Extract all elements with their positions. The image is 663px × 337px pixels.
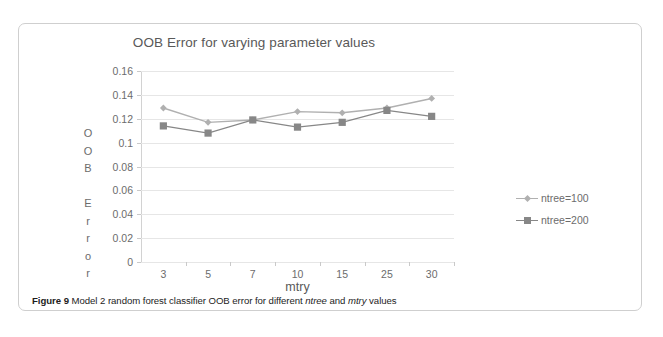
x-tick-label: 3 xyxy=(160,268,166,280)
y-axis-title-letter: B xyxy=(81,160,95,178)
x-tick-label: 25 xyxy=(381,268,393,280)
legend-diamond-icon xyxy=(516,192,538,204)
legend-item-1[interactable]: ntree=100 xyxy=(516,187,636,209)
series-plot xyxy=(141,71,454,262)
figure-caption: Figure 9 Model 2 random forest classifie… xyxy=(32,295,632,306)
y-axis-title-letter xyxy=(81,178,95,196)
marker-diamond xyxy=(205,119,212,126)
figure-frame: OOB Error for varying parameter values O… xyxy=(18,23,642,311)
x-tick-mark xyxy=(454,262,455,266)
y-tick-label: 0.06 xyxy=(113,184,133,196)
x-tick-mark xyxy=(275,262,276,266)
x-tick-label: 5 xyxy=(205,268,211,280)
y-axis-title-letter: r xyxy=(81,265,95,283)
marker-square xyxy=(160,122,167,129)
marker-square xyxy=(428,113,435,120)
y-tick-label: 0.04 xyxy=(113,208,133,220)
plot-area: 00.020.040.060.080.10.120.140.16 3571015… xyxy=(141,71,454,262)
marker-square xyxy=(383,107,390,114)
y-axis-title-letter: r xyxy=(81,230,95,248)
gridline xyxy=(141,262,454,263)
x-tick-mark xyxy=(365,262,366,266)
x-tick-mark xyxy=(409,262,410,266)
y-tick-mark xyxy=(137,262,141,263)
x-tick-label: 10 xyxy=(292,268,304,280)
x-axis-title: mtry xyxy=(141,280,454,294)
marker-square xyxy=(294,124,301,131)
legend-label: ntree=100 xyxy=(541,192,589,204)
y-axis-title-letter: o xyxy=(81,248,95,266)
marker-square xyxy=(249,116,256,123)
caption-emphasis-ntree: ntree xyxy=(305,295,327,306)
marker-diamond xyxy=(339,109,346,116)
y-tick-label: 0.12 xyxy=(113,113,133,125)
caption-label: Figure 9 xyxy=(32,295,69,306)
x-tick-label: 15 xyxy=(336,268,348,280)
y-axis-title-letter: O xyxy=(81,125,95,143)
x-tick-label: 30 xyxy=(426,268,438,280)
marker-diamond xyxy=(294,108,301,115)
y-tick-label: 0.08 xyxy=(113,161,133,173)
series-1 xyxy=(160,95,435,126)
marker-diamond xyxy=(428,95,435,102)
caption-emphasis-mtry: mtry xyxy=(348,295,366,306)
x-tick-label: 7 xyxy=(250,268,256,280)
marker-square xyxy=(339,119,346,126)
x-tick-mark xyxy=(230,262,231,266)
chart-title: OOB Error for varying parameter values xyxy=(19,35,489,50)
y-axis-title-letter: r xyxy=(81,213,95,231)
marker-square xyxy=(204,129,211,136)
y-tick-label: 0.14 xyxy=(113,89,133,101)
caption-text-part-1: Model 2 random forest classifier OOB err… xyxy=(72,295,303,306)
y-axis-title-letter: E xyxy=(81,195,95,213)
legend-square-icon xyxy=(516,214,538,226)
y-tick-label: 0 xyxy=(127,256,133,268)
caption-text-part-3: values xyxy=(369,295,396,306)
y-axis-title-letter: O xyxy=(81,143,95,161)
x-tick-mark xyxy=(320,262,321,266)
chart-legend: ntree=100ntree=200 xyxy=(516,187,636,231)
y-tick-label: 0.1 xyxy=(118,137,133,149)
y-tick-label: 0.16 xyxy=(113,65,133,77)
legend-item-2[interactable]: ntree=200 xyxy=(516,209,636,231)
y-tick-label: 0.02 xyxy=(113,232,133,244)
marker-diamond xyxy=(160,105,167,112)
legend-label: ntree=200 xyxy=(541,214,589,226)
caption-text-part-2: and xyxy=(330,295,346,306)
chart-area: OOB Error for varying parameter values O… xyxy=(19,24,641,286)
x-tick-mark xyxy=(186,262,187,266)
y-axis-title: OOB Error xyxy=(81,125,95,283)
